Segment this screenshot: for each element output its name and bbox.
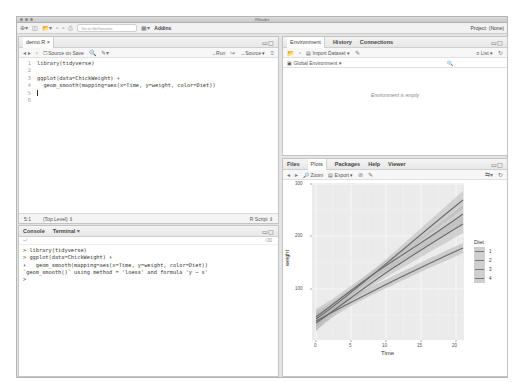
global-environment-dropdown[interactable]: ▣ Global Environment ▾ [287,60,342,66]
legend-item-3: 3 [474,265,492,274]
tab-packages[interactable]: Packages [335,161,360,167]
files-tabbar: Files Plots Packages Help Viewer ▭▢ [283,159,507,170]
source-on-save-checkbox[interactable]: ☐ Source on Save [43,50,84,56]
code-line: 6 [19,97,278,104]
legend: Diet 1 2 3 4 [474,239,492,283]
refresh-icon[interactable]: ↻ [498,50,503,56]
environment-pane: Environment History Connections ▭▢ 📂 ▫ ▤… [282,36,508,156]
outline-icon[interactable]: ≡ [270,50,274,56]
scope-selector[interactable]: (Top Level) ⇕ [43,216,73,222]
console-path-bar: ~/ ⌫ [19,237,278,245]
print-icon[interactable]: ⎙ [68,25,73,31]
rerun-icon[interactable]: ↪ [230,50,235,56]
back-arrow-icon[interactable]: ◂ ▸ [23,50,31,56]
x-axis-title: Time [381,350,394,356]
open-file-icon[interactable]: 📂▾ [42,25,52,31]
tab-files[interactable]: Files [287,161,300,167]
goto-file-input[interactable]: Go to file/function [77,24,137,32]
save-workspace-icon[interactable]: ▫ [299,50,301,56]
environment-scope-bar: ▣ Global Environment ▾ 🔍 [283,58,507,68]
y-tick-300: 300 [295,181,303,186]
tab-terminal[interactable]: Terminal × [53,228,80,234]
console-tabbar: Console Terminal × ▭▢ [19,226,278,237]
clear-console-icon[interactable]: ⌫ [265,238,272,243]
editor-toolbar: ◂ ▸ ▫ ☐ Source on Save 🔍 ✎▾ →Run ↪ →Sour… [19,48,278,58]
tab-demo-r[interactable]: demo.R × [23,37,54,48]
x-tick-20: 20 [452,343,457,348]
console-pane: Console Terminal × ▭▢ ~/ ⌫ > library(tid… [18,225,279,377]
save-doc-icon[interactable]: ▫ [36,50,38,56]
console-path: ~/ [23,238,27,243]
cursor-position: 5:1 [24,216,31,222]
project-menu[interactable]: Project: (None) [470,25,504,31]
x-tick-0: 0 [314,343,317,348]
code-line: 3ggplot(data=ChickWeight) + [19,75,278,82]
filetype-selector[interactable]: R Script ⇕ [250,216,273,222]
export-button[interactable]: ▤ Export ▾ [328,172,353,178]
new-file-icon[interactable]: ⊕▾ [20,25,28,31]
pane-window-controls[interactable]: ▭▢ [491,161,503,168]
legend-swatch [474,265,485,274]
code-line: 1library(tidyverse) [19,60,278,67]
addins-menu[interactable]: Addins [154,25,171,31]
x-tick-15: 15 [417,343,422,348]
list-view-button[interactable]: ≡ List ▾ [477,50,493,56]
zoom-button[interactable]: 🔎 Zoom [303,172,323,178]
broom-icon[interactable]: ✎ [355,50,360,56]
code-editor[interactable]: 1library(tidyverse) 2 3ggplot(data=Chick… [19,58,278,104]
y-tick-100: 100 [295,286,303,291]
code-line: 4 geom_smooth(mapping=aes(x=Time, y=weig… [19,82,278,89]
search-icon[interactable]: 🔍 [447,60,453,66]
tab-connections[interactable]: Connections [360,39,393,45]
tab-help[interactable]: Help [368,161,380,167]
tab-environment[interactable]: Environment [287,37,325,48]
pane-window-controls[interactable]: ▭▢ [491,39,503,46]
run-button[interactable]: →Run [211,50,225,56]
environment-empty-message: Environment is empty [283,92,507,98]
load-workspace-icon[interactable]: 📂 [287,50,294,56]
editor-statusbar: 5:1 (Top Level) ⇕ R Script ⇕ [19,213,278,223]
code-line: 5 [19,90,278,97]
broom-icon[interactable]: ✎ [368,172,373,178]
next-plot-icon[interactable]: ▸ [295,172,298,178]
remove-plot-icon[interactable]: ⊘ [358,172,363,178]
legend-title: Diet [474,239,492,245]
pane-window-controls[interactable]: ▭▢ [262,228,274,235]
prev-plot-icon[interactable]: ◂ [287,172,290,178]
wand-icon[interactable]: ✎▾ [101,50,109,56]
y-axis-title: weight [284,250,290,266]
environment-toolbar: 📂 ▫ ▤ Import Dataset ▾ ✎ ≡ List ▾ ↻ [283,48,507,58]
grid-layout-icon[interactable]: ▦▾ [141,25,150,31]
legend-item-4: 4 [474,274,492,283]
save-all-icon[interactable]: ▫ [62,25,64,31]
x-tick-5: 5 [349,343,352,348]
environment-tabbar: Environment History Connections ▭▢ [283,37,507,48]
save-icon[interactable]: ▫ [56,25,58,31]
new-project-icon[interactable]: ◫ [32,25,38,31]
search-icon[interactable]: 🔍 [89,50,96,56]
legend-swatch [474,274,485,283]
tab-plots[interactable]: Plots [308,159,327,170]
ggplot-chart: 300 200 100 0 5 10 15 20 Time weight Die… [283,181,507,377]
tab-console[interactable]: Console [23,228,45,234]
console-output[interactable]: > library(tidyverse)> ggplot(data=ChickW… [19,245,278,285]
x-tick-10: 10 [382,343,387,348]
tab-viewer[interactable]: Viewer [388,161,406,167]
import-dataset-button[interactable]: ▤ Import Dataset ▾ [306,50,350,56]
tab-history[interactable]: History [333,39,352,45]
legend-item-2: 2 [474,256,492,265]
legend-item-1: 1 [474,247,492,256]
refresh-icon[interactable]: ↻ [498,172,503,178]
rstudio-window: RStudio ⊕▾ ◫ 📂▾ ▫ ▫ ⎙ Go to file/functio… [16,16,508,378]
source-button[interactable]: →Source ▾ [240,50,265,56]
main-toolbar: ⊕▾ ◫ 📂▾ ▫ ▫ ⎙ Go to file/function ▦▾ Add… [17,23,507,34]
plots-toolbar: ◂ ▸ 🔎 Zoom ▤ Export ▾ ⊘ ✎ ⇆▾ ↻ [283,170,507,180]
pane-window-controls[interactable]: ▭▢ [262,39,274,46]
publish-icon[interactable]: ⇆▾ [485,172,493,178]
y-tick-200: 200 [295,233,303,238]
legend-swatch [474,256,485,265]
text-cursor [37,90,38,96]
editor-pane: demo.R × ▭▢ ◂ ▸ ▫ ☐ Source on Save 🔍 ✎▾ … [18,36,279,224]
code-line: 2 [19,67,278,74]
editor-tabbar: demo.R × ▭▢ [19,37,278,48]
